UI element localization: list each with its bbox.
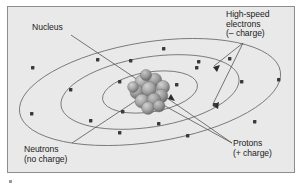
nucleon: [140, 69, 151, 80]
electron: [121, 110, 124, 113]
arrowhead-protons-b: [168, 94, 175, 101]
page-margin-tick: [9, 180, 12, 183]
leader-electrons-b: [213, 43, 243, 104]
electron: [253, 120, 256, 123]
electron: [195, 66, 198, 69]
leader-neutrons: [72, 96, 143, 143]
leader-electrons-a: [214, 43, 243, 66]
electron: [277, 78, 280, 81]
electron: [228, 57, 231, 60]
electron: [30, 112, 33, 115]
leader-protons-a: [156, 101, 232, 143]
electron: [240, 80, 243, 83]
electron: [175, 83, 178, 86]
label-nucleus-line1: Nucleus: [32, 23, 63, 33]
electron: [197, 60, 200, 63]
electron: [129, 59, 132, 62]
electron: [118, 80, 121, 83]
leader-protons-b: [167, 98, 232, 143]
electron: [96, 58, 99, 61]
label-high-speed-electrons: High-speed electrons (– charge): [226, 10, 269, 39]
nucleon: [153, 100, 165, 112]
electron: [186, 134, 189, 137]
label-electrons-line3: (– charge): [226, 29, 269, 39]
label-neutrons-line2: (no charge): [24, 155, 67, 165]
electron: [213, 103, 216, 106]
electron: [162, 47, 165, 50]
label-nucleus: Nucleus: [32, 23, 63, 33]
diagram-stage: Nucleus High-speed electrons (– charge) …: [0, 0, 302, 187]
electron: [69, 88, 72, 91]
nucleus-cluster: [128, 69, 170, 114]
nucleon: [128, 82, 139, 93]
electron: [31, 66, 34, 69]
label-protons-line2: (+ charge): [233, 149, 272, 159]
electron: [157, 122, 160, 125]
label-protons: Protons (+ charge): [233, 139, 272, 158]
label-neutrons: Neutrons (no charge): [24, 145, 67, 164]
nucleon: [142, 102, 155, 115]
electron: [118, 131, 121, 134]
electron: [89, 119, 92, 122]
